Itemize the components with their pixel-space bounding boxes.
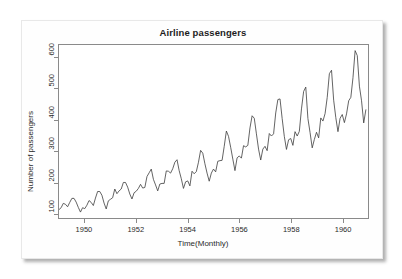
y-axis-tick-label: 300 bbox=[48, 143, 57, 156]
x-axis-tick bbox=[188, 219, 189, 223]
y-axis-tick-label: 500 bbox=[48, 80, 57, 93]
series-line-airpassengers bbox=[59, 45, 368, 218]
plot-area bbox=[58, 44, 369, 219]
x-axis-tick bbox=[291, 219, 292, 223]
x-axis-tick-label: 1958 bbox=[283, 225, 300, 234]
screenshot-root: Airline passengers Number of passengers … bbox=[0, 0, 402, 279]
x-axis-tick-label: 1952 bbox=[127, 225, 144, 234]
x-axis-tick bbox=[136, 219, 137, 223]
y-axis-tick-label: 600 bbox=[48, 49, 57, 62]
x-axis-tick bbox=[239, 219, 240, 223]
x-axis-tick-label: 1950 bbox=[76, 225, 93, 234]
y-axis-tick-label: 400 bbox=[48, 112, 57, 125]
x-axis-tick-label: 1960 bbox=[335, 225, 352, 234]
chart-title: Airline passengers bbox=[22, 27, 384, 38]
y-axis: 100200300400500600 bbox=[22, 21, 58, 258]
y-axis-tick-label: 100 bbox=[48, 207, 57, 220]
x-axis-tick-label: 1954 bbox=[179, 225, 196, 234]
chart-card: Airline passengers Number of passengers … bbox=[21, 20, 383, 259]
x-axis-tick bbox=[84, 219, 85, 223]
x-axis-tick-label: 1956 bbox=[231, 225, 248, 234]
x-axis-tick bbox=[343, 219, 344, 223]
x-axis-title: Time(Monthly) bbox=[22, 239, 384, 248]
y-axis-tick-label: 200 bbox=[48, 175, 57, 188]
